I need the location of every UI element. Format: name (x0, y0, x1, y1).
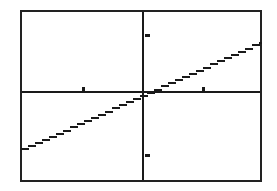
x-axis-tick (82, 87, 85, 92)
y-axis-tick (145, 34, 150, 37)
curve-pixel-run (217, 60, 225, 62)
curve-pixel-run (182, 76, 190, 78)
curve-pixel-run (224, 57, 232, 59)
curve-pixel-run (245, 48, 253, 50)
curve-pixel-run (259, 42, 262, 44)
curve-pixel-run (84, 120, 92, 122)
curve-pixel-run (98, 114, 106, 116)
curve-pixel-run (112, 107, 120, 109)
curve-pixel-run (231, 54, 239, 56)
curve-pixel-run (133, 98, 141, 100)
curve-pixel-run (189, 73, 197, 75)
curve-pixel-run (28, 145, 36, 147)
curve-pixel-run (49, 136, 57, 138)
curve-pixel-run (91, 117, 99, 119)
x-axis-tick (202, 87, 205, 92)
y-axis-tick (145, 154, 150, 157)
plot-canvas (0, 0, 277, 191)
curve-pixel-run (70, 126, 78, 128)
curve-pixel-run (203, 67, 211, 69)
curve-pixel-run (35, 142, 43, 144)
curve-pixel-run (105, 111, 113, 113)
curve-pixel-run (238, 51, 246, 53)
curve-pixel-run (210, 63, 218, 65)
curve-pixel-run (175, 79, 183, 81)
curve-pixel-run (252, 44, 260, 46)
curve-pixel-run (42, 139, 50, 141)
curve-pixel-run (63, 130, 71, 132)
curve-pixel-run (56, 133, 64, 135)
curve-pixel-run (147, 92, 155, 94)
curve-pixel-run (140, 95, 148, 97)
curve-pixel-run (21, 148, 29, 150)
curve-pixel-run (77, 123, 85, 125)
curve-pixel-run (161, 85, 169, 87)
curve-pixel-run (126, 101, 134, 103)
curve-pixel-run (154, 89, 162, 91)
curve-pixel-run (119, 104, 127, 106)
curve-pixel-run (196, 70, 204, 72)
curve-pixel-run (168, 82, 176, 84)
calculator-screen (0, 0, 277, 191)
